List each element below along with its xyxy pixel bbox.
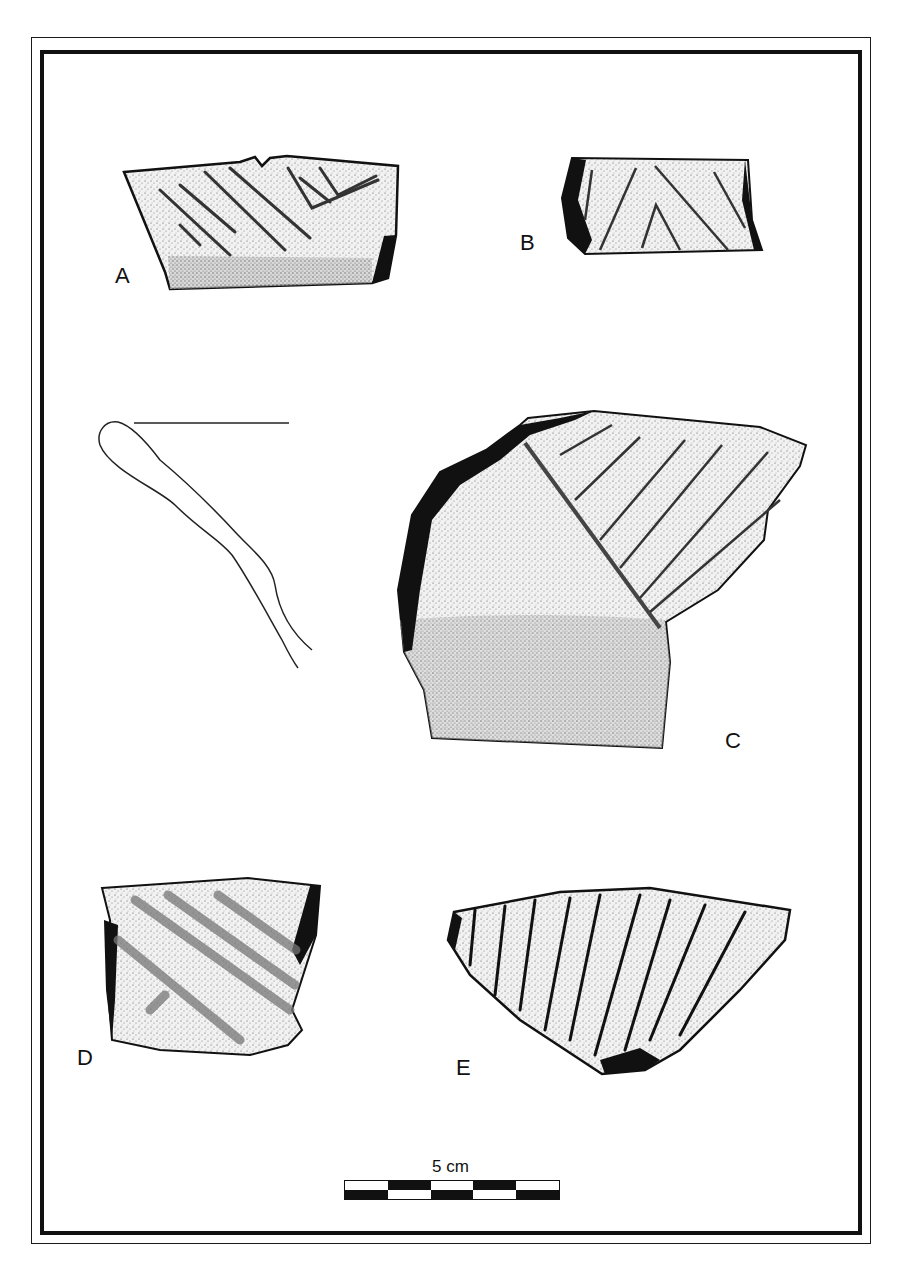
- sherd-label-a: A: [115, 265, 130, 287]
- scale-bar: [344, 1180, 560, 1200]
- sherd-label-d: D: [77, 1047, 93, 1069]
- sherd-c: [398, 411, 806, 748]
- scale-bar-label: 5 cm: [432, 1157, 469, 1177]
- sherd-b: [562, 158, 762, 254]
- sherd-d: [102, 878, 320, 1055]
- sherd-a: [124, 156, 398, 289]
- sherd-label-e: E: [456, 1057, 471, 1079]
- sherd-label-c: C: [725, 730, 741, 752]
- sherd-label-b: B: [520, 232, 535, 254]
- sherd-illustrations: [0, 0, 900, 1270]
- rim-profile-drawing: [99, 422, 312, 668]
- sherd-e: [448, 888, 790, 1074]
